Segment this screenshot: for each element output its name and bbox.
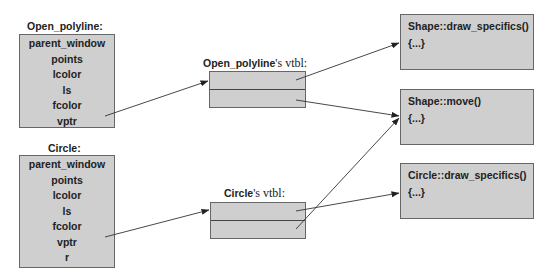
function-circle-draw-specifics: Circle::draw_specifics() {...}	[400, 163, 534, 219]
arrow-op-move	[296, 100, 399, 116]
function-body: {...}	[408, 111, 526, 125]
function-name: Shape::move()	[408, 94, 526, 108]
arrow-circle-draw-specifics	[296, 193, 399, 211]
function-shape-draw-specifics: Shape::draw_specifics() {...}	[400, 14, 534, 70]
field-lcolor: lcolor	[20, 188, 114, 204]
open-polyline-vtbl-title: Open_polyline's vtbl:	[203, 56, 307, 71]
vtbl-class-name: Circle	[224, 187, 253, 199]
function-shape-move: Shape::move() {...}	[400, 89, 534, 145]
vtbl-class-name: Open_polyline	[203, 57, 275, 69]
open-polyline-object-title: Open_polyline:	[27, 20, 103, 32]
field-ls: ls	[20, 83, 114, 99]
field-fcolor: fcolor	[20, 219, 114, 235]
field-parent-window: parent_window	[20, 157, 114, 173]
circle-object-title: Circle:	[48, 142, 81, 154]
field-r: r	[20, 250, 114, 266]
open-polyline-vtbl	[209, 71, 306, 108]
arrow-circle-vptr	[105, 210, 209, 237]
circle-object: parent_window points lcolor ls fcolor vp…	[19, 155, 115, 268]
function-body: {...}	[408, 36, 526, 50]
field-parent-window: parent_window	[20, 36, 114, 52]
arrow-circle-move	[296, 118, 399, 229]
circle-vtbl	[210, 202, 306, 239]
function-name: Circle::draw_specifics()	[408, 168, 526, 182]
field-lcolor: lcolor	[20, 67, 114, 83]
field-points: points	[20, 173, 114, 189]
arrow-op-draw-specifics	[296, 43, 399, 80]
field-vptr: vptr	[20, 235, 114, 251]
field-ls: ls	[20, 204, 114, 220]
circle-vtbl-title: Circle's vtbl:	[224, 186, 285, 201]
vtbl-suffix: 's vtbl:	[275, 56, 307, 70]
vtbl-slot-draw-specifics	[210, 72, 305, 90]
function-body: {...}	[408, 185, 526, 199]
vtbl-slot-move	[210, 90, 305, 108]
vtbl-slot-move	[211, 221, 305, 239]
field-vptr: vptr	[20, 114, 114, 130]
arrow-open-polyline-vptr	[105, 81, 208, 116]
field-points: points	[20, 52, 114, 68]
open-polyline-object: parent_window points lcolor ls fcolor vp…	[19, 34, 115, 128]
vtbl-slot-draw-specifics	[211, 203, 305, 221]
function-name: Shape::draw_specifics()	[408, 19, 526, 33]
field-fcolor: fcolor	[20, 98, 114, 114]
vtbl-suffix: 's vtbl:	[253, 186, 285, 200]
